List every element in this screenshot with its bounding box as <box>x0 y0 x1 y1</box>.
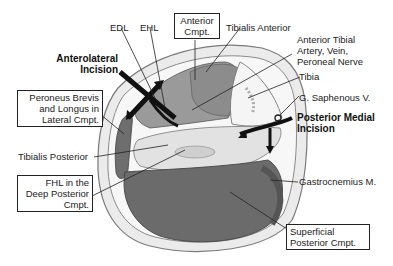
label-line: Posterior Medial <box>297 112 375 123</box>
label-line: Lateral Cmpt. <box>21 114 99 125</box>
label-saphenous-vein: G. Saphenous V. <box>299 92 370 103</box>
label-line: Anterolateral <box>50 53 118 64</box>
label-gastrocnemius: Gastrocnemius M. <box>299 176 376 187</box>
label-line: Deep Posterior <box>21 188 89 199</box>
label-line: and Longus in <box>21 103 99 114</box>
label-tibialis-posterior: Tibialis Posterior <box>18 151 88 162</box>
label-line: FHL in the <box>21 177 89 188</box>
label-line: Anterior Tibial <box>297 34 363 45</box>
label-anterior-compartment: Anterior Cmpt. <box>174 13 220 39</box>
label-anterolateral-incision: Anterolateral Incision <box>50 53 118 75</box>
leg-cross-section-diagram: EDL EHL Anterior Cmpt. Tibialis Anterior… <box>0 0 393 266</box>
label-ehl: EHL <box>140 22 158 33</box>
label-line: Cmpt. <box>178 26 216 37</box>
label-anterior-tibial: Anterior Tibial Artery, Vein, Peroneal N… <box>297 34 363 67</box>
label-line: Anterior <box>178 15 216 26</box>
label-line: Superficial <box>290 226 366 237</box>
label-line: Peroneus Brevis <box>21 92 99 103</box>
label-posterior-medial-incision: Posterior Medial Incision <box>297 112 375 134</box>
label-line: Posterior Cmpt. <box>290 237 366 248</box>
superficial-posterior-compartment <box>124 160 283 242</box>
label-peroneus: Peroneus Brevis and Longus in Lateral Cm… <box>17 90 103 127</box>
label-fhl: FHL in the Deep Posterior Cmpt. <box>17 175 93 212</box>
label-tibialis-anterior: Tibialis Anterior <box>226 22 291 33</box>
label-line: Incision <box>297 123 375 134</box>
label-line: Incision <box>50 64 118 75</box>
label-edl: EDL <box>110 22 128 33</box>
label-superficial-posterior: Superficial Posterior Cmpt. <box>286 224 370 250</box>
label-line: Cmpt. <box>21 199 89 210</box>
label-line: Artery, Vein, <box>297 45 363 56</box>
label-tibia: Tibia <box>299 71 319 82</box>
label-line: Peroneal Nerve <box>297 56 363 67</box>
